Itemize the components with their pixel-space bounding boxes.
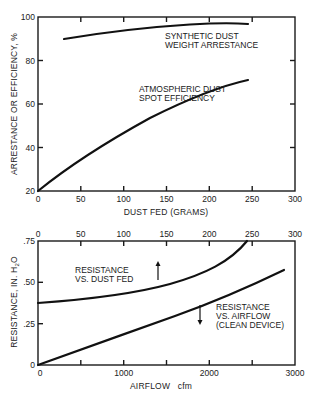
x-tick-1000-cfm: 1000 — [114, 368, 133, 378]
top-x-tick-150: 150 — [159, 229, 173, 239]
y-tick-40: 40 — [26, 143, 36, 153]
x-tick-3000-cfm: 3000 — [286, 368, 305, 378]
x-tick-50: 50 — [76, 194, 86, 204]
x-tick-0: 0 — [36, 194, 41, 204]
y-tick-60: 60 — [26, 99, 36, 109]
y-tick-075: .75 — [23, 236, 35, 246]
x-tick-250: 250 — [245, 194, 259, 204]
top-y-ticks — [38, 61, 295, 148]
label-atmos-line2: SPOT EFFICIENCY — [139, 93, 215, 103]
figure: 100 80 60 40 20 0 50 100 150 200 250 3 — [0, 0, 314, 397]
resistance-vs-dust-fed-curve — [38, 241, 247, 303]
top-y-axis-title: ARRESTANCE OR EFFICIENCY, % — [9, 33, 19, 175]
bottom-x-axis-title: AIRFLOW cfm — [130, 381, 192, 391]
top-y-tick-labels: 100 80 60 40 20 — [21, 12, 35, 196]
x-tick-150: 150 — [159, 194, 173, 204]
top-x-tick-labels: 0 50 100 150 200 250 300 — [36, 194, 303, 204]
top-x-tick-50: 50 — [76, 229, 86, 239]
bottom-y-tick-labels: .75 .50 .25 0 — [23, 236, 35, 370]
bottom-x-ticks — [81, 360, 252, 365]
label-synthetic-line2: WEIGHT ARRESTANCE — [165, 40, 259, 50]
x-tick-100: 100 — [117, 194, 131, 204]
label-dust-fed-line2: VS. DUST FED — [75, 274, 133, 284]
x-tick-300: 300 — [288, 194, 302, 204]
bottom-top-x-ticks — [81, 241, 252, 246]
y-tick-050: .50 — [23, 277, 35, 287]
top-x-tick-250: 250 — [245, 229, 259, 239]
bottom-y-axis-title: RESISTANCE, IN. H2O — [9, 256, 20, 348]
bottom-top-x-tick-labels: 0 50 100 150 200 250 300 — [36, 229, 303, 239]
top-x-tick-0: 0 — [36, 229, 41, 239]
top-chart: 100 80 60 40 20 0 50 100 150 200 250 3 — [9, 12, 302, 217]
x-tick-0-cfm: 0 — [38, 368, 43, 378]
y-tick-0: 0 — [30, 360, 35, 370]
bottom-x-tick-labels: 0 1000 2000 3000 — [38, 368, 305, 378]
top-x-axis-title: DUST FED (GRAMS) — [124, 207, 209, 217]
bottom-chart: 0 50 100 150 200 250 300 .75 .50 .25 0 — [9, 229, 305, 391]
arrow-up-icon — [156, 261, 161, 280]
label-airflow-line3: (CLEAN DEVICE) — [216, 320, 284, 330]
x-tick-2000-cfm: 2000 — [200, 368, 219, 378]
y-tick-025: .25 — [23, 319, 35, 329]
top-x-tick-200: 200 — [202, 229, 216, 239]
y-tick-100: 100 — [21, 12, 35, 22]
top-x-tick-300: 300 — [288, 229, 302, 239]
x-tick-200: 200 — [202, 194, 216, 204]
y-tick-80: 80 — [26, 56, 36, 66]
y-tick-20: 20 — [26, 186, 36, 196]
top-x-tick-100: 100 — [117, 229, 131, 239]
